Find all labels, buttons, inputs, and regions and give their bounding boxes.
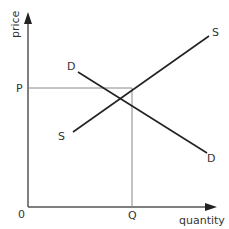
y-axis-label: price <box>9 10 22 38</box>
supply-start-label: S <box>58 130 65 143</box>
x-axis-label: quantity <box>179 214 225 227</box>
price-label: P <box>16 82 23 95</box>
x-axis-arrow-icon <box>205 203 217 211</box>
quantity-label: Q <box>128 209 137 222</box>
demand-end-label: D <box>207 152 215 165</box>
supply-demand-diagram: price quantity 0 P Q D D S S <box>0 0 229 229</box>
origin-label: 0 <box>18 208 25 221</box>
demand-curve <box>78 72 207 153</box>
supply-end-label: S <box>212 26 219 39</box>
demand-start-label: D <box>67 60 75 73</box>
y-axis-arrow-icon <box>24 12 32 24</box>
supply-curve <box>73 36 209 132</box>
